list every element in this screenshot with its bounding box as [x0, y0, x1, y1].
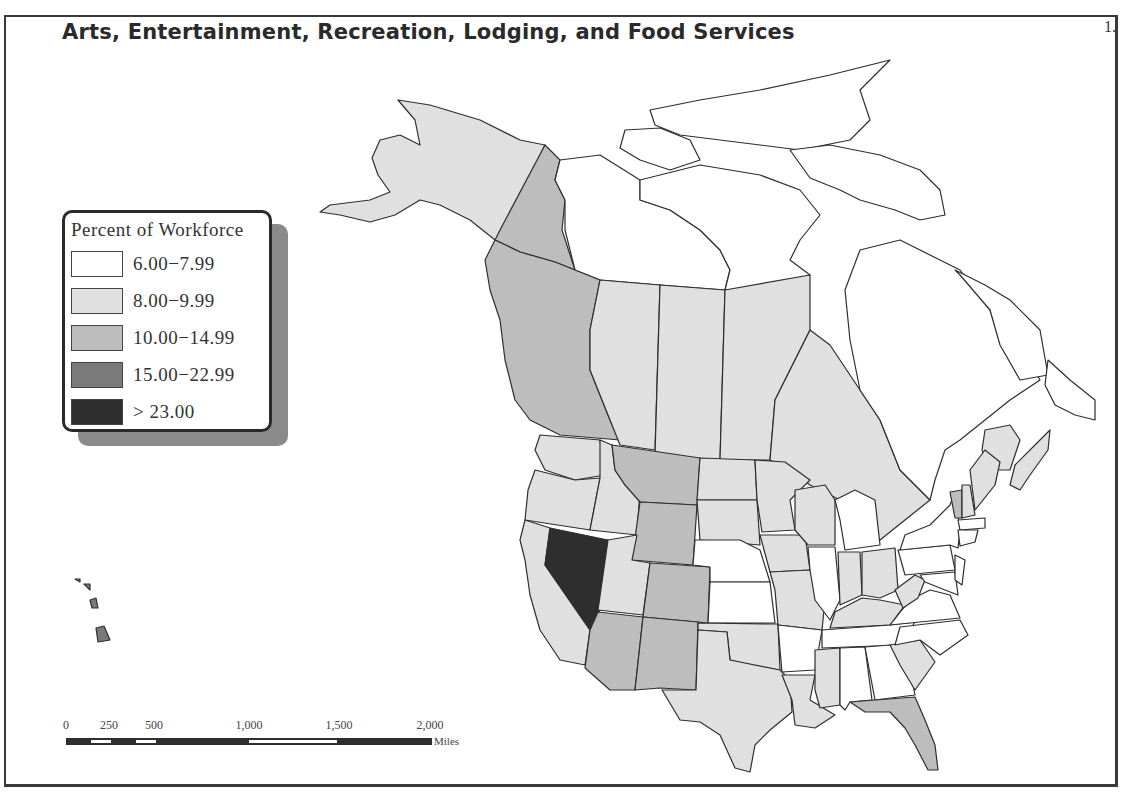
region-colorado[interactable]	[643, 563, 710, 623]
region-wisconsin[interactable]	[795, 485, 835, 545]
legend-swatch	[71, 288, 123, 314]
region-ohio[interactable]	[862, 548, 898, 598]
region-massachusetts[interactable]	[958, 518, 985, 530]
scale-tick: 500	[145, 718, 163, 733]
scale-tick: 1,500	[326, 718, 353, 733]
region-indiana[interactable]	[838, 552, 862, 605]
region-newfoundland[interactable]	[1045, 360, 1095, 420]
region-arctic-islands[interactable]	[650, 60, 890, 150]
scale-tick: 2,000	[417, 718, 444, 733]
legend-title: Percent of Workforce	[71, 219, 269, 241]
scale-bar-graphic	[66, 738, 432, 745]
region-new-jersey[interactable]	[955, 555, 965, 585]
legend: Percent of Workforce 6.00−7.99 8.00−9.99…	[62, 210, 272, 432]
region-south-dakota[interactable]	[697, 500, 760, 545]
scale-unit: Miles	[434, 735, 459, 747]
region-north-dakota[interactable]	[697, 458, 757, 500]
region-arizona[interactable]	[585, 612, 643, 690]
scale-tick: 0	[63, 718, 69, 733]
scale-tick: 250	[100, 718, 118, 733]
legend-label: > 23.00	[133, 401, 195, 423]
region-connecticut[interactable]	[958, 530, 978, 546]
legend-swatch	[71, 325, 123, 351]
region-maine[interactable]	[970, 450, 1000, 510]
region-hawaii[interactable]	[75, 579, 110, 642]
legend-swatch	[71, 251, 123, 277]
scale-bar: 0 250 500 1,000 1,500 2,000 Miles	[62, 718, 482, 758]
region-iowa[interactable]	[760, 535, 810, 572]
scale-segment	[91, 740, 111, 743]
region-oregon[interactable]	[525, 470, 600, 530]
legend-swatch	[71, 399, 123, 425]
legend-item: 10.00−14.99	[71, 319, 269, 356]
region-mississippi[interactable]	[815, 648, 840, 708]
region-saskatchewan[interactable]	[655, 285, 725, 460]
region-michigan[interactable]	[835, 490, 880, 550]
legend-item: > 23.00	[71, 393, 269, 430]
scale-segment	[136, 740, 156, 743]
legend-label: 8.00−9.99	[133, 290, 215, 312]
legend-label: 10.00−14.99	[133, 327, 235, 349]
legend-swatch	[71, 362, 123, 388]
region-florida[interactable]	[850, 697, 938, 770]
legend-item: 15.00−22.99	[71, 356, 269, 393]
region-wyoming[interactable]	[632, 502, 697, 565]
legend-label: 15.00−22.99	[133, 364, 235, 386]
scale-tick: 1,000	[236, 718, 263, 733]
legend-item: 6.00−7.99	[71, 245, 269, 282]
region-kansas[interactable]	[708, 582, 775, 623]
region-new-mexico[interactable]	[635, 617, 698, 690]
scale-segment	[249, 740, 337, 743]
legend-item: 8.00−9.99	[71, 282, 269, 319]
legend-label: 6.00−7.99	[133, 253, 215, 275]
